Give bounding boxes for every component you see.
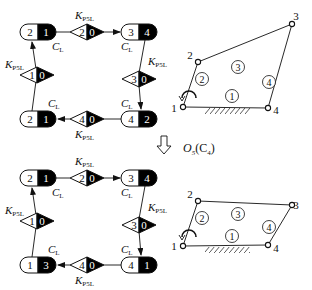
joint-label: 3 xyxy=(293,10,299,22)
joint-label: 4 xyxy=(273,104,279,116)
node-right-value: 2 xyxy=(144,113,150,125)
cl-label-tl: CL xyxy=(52,186,64,200)
down-arrow-icon xyxy=(157,136,171,154)
link-label: 1 xyxy=(230,231,235,242)
link-node-br: 41 xyxy=(121,257,157,273)
joint-diamond-right: 30 xyxy=(122,71,156,87)
joint-3 xyxy=(289,21,294,26)
ground-hatch xyxy=(205,108,250,114)
joint-1 xyxy=(180,243,185,248)
kp5l-label-left: KP5L xyxy=(4,204,24,218)
link-label: 4 xyxy=(267,222,272,233)
diamond-left-value: 1 xyxy=(29,215,35,227)
node-right-value: 4 xyxy=(144,172,150,184)
node-right-value: 1 xyxy=(144,259,150,271)
diamond-right-value: 0 xyxy=(141,73,147,85)
node-left-value: 2 xyxy=(27,113,33,125)
cl-label-br: CL xyxy=(121,97,133,111)
diamond-left-value: 2 xyxy=(79,26,85,38)
kinematic-diagram: 2134214220103040KP5LKP5LKP5LKP5LCLCLCLCL… xyxy=(0,0,312,290)
diamond-left-value: 2 xyxy=(79,172,85,184)
link-label: 2 xyxy=(200,74,205,85)
ground-hatch xyxy=(205,247,250,253)
topology-graph-1: 2134214220103040KP5LKP5LKP5LKP5LCLCLCLCL xyxy=(4,9,167,142)
cl-label-tr: CL xyxy=(121,186,133,200)
topology-graph-2: 2134134120103040KP5LKP5LKP5LKP5LCLCLCLCL xyxy=(4,155,167,288)
node-right-value: 1 xyxy=(43,172,49,184)
cl-label-bl: CL xyxy=(48,97,60,111)
kp5l-label-left: KP5L xyxy=(4,58,24,72)
node-left-value: 4 xyxy=(128,259,134,271)
node-left-value: 2 xyxy=(27,172,33,184)
kp5l-label-bottom: KP5L xyxy=(74,274,94,288)
link-node-tl: 21 xyxy=(20,24,56,40)
kp5l-label-right: KP5L xyxy=(147,201,167,215)
link-label: 3 xyxy=(236,62,241,73)
node-left-value: 2 xyxy=(27,26,33,38)
diamond-left-value: 4 xyxy=(79,113,85,125)
link-node-br: 42 xyxy=(121,111,157,127)
kp5l-label-right: KP5L xyxy=(147,55,167,69)
joint-diamond-left: 10 xyxy=(20,67,54,83)
joint-label: 2 xyxy=(187,49,193,61)
four-bar-mechanism-2: 12341234 xyxy=(171,188,299,254)
diamond-left-value: 1 xyxy=(29,69,35,81)
kp5l-label-top: KP5L xyxy=(74,155,94,169)
node-right-value: 1 xyxy=(43,113,49,125)
joint-2 xyxy=(195,198,200,203)
kp5l-label-bottom: KP5L xyxy=(74,128,94,142)
diamond-right-value: 0 xyxy=(89,259,95,271)
operation-label: O5(C4) xyxy=(183,141,215,157)
joint-1 xyxy=(180,104,185,109)
node-left-value: 4 xyxy=(128,113,134,125)
diamond-right-value: 0 xyxy=(141,219,147,231)
link-node-tr: 34 xyxy=(121,170,157,186)
link-node-tl: 21 xyxy=(20,170,56,186)
link-node-bl: 21 xyxy=(20,111,56,127)
joint-4 xyxy=(265,242,270,247)
joint-2 xyxy=(195,59,200,64)
link-node-tr: 34 xyxy=(121,24,157,40)
joint-label: 1 xyxy=(171,102,177,114)
link-label: 3 xyxy=(236,209,241,220)
joint-4 xyxy=(265,105,270,110)
joint-diamond-bottom: 40 xyxy=(70,257,104,273)
diamond-left-value: 3 xyxy=(131,219,137,231)
cl-label-bl: CL xyxy=(48,243,60,257)
joint-label: 1 xyxy=(171,240,177,252)
transformation-step: O5(C4) xyxy=(157,136,215,157)
diamond-right-value: 0 xyxy=(89,26,95,38)
link-node-bl: 13 xyxy=(20,257,56,273)
diamond-right-value: 0 xyxy=(39,215,45,227)
joint-diamond-top: 20 xyxy=(70,170,104,186)
node-right-value: 1 xyxy=(43,26,49,38)
kp5l-label-top: KP5L xyxy=(74,9,94,23)
link-label: 4 xyxy=(267,77,272,88)
node-right-value: 4 xyxy=(144,26,150,38)
joint-label: 4 xyxy=(273,242,279,254)
four-bar-mechanism-1: 12341234 xyxy=(171,10,299,116)
joint-label: 3 xyxy=(293,199,299,211)
joint-diamond-left: 10 xyxy=(20,213,54,229)
node-left-value: 3 xyxy=(128,26,134,38)
diamond-right-value: 0 xyxy=(39,69,45,81)
diamond-left-value: 3 xyxy=(131,73,137,85)
node-left-value: 1 xyxy=(27,259,33,271)
link-label: 2 xyxy=(200,213,205,224)
link-label: 1 xyxy=(230,91,235,102)
cl-label-tl: CL xyxy=(52,40,64,54)
diamond-right-value: 0 xyxy=(89,172,95,184)
cl-label-tr: CL xyxy=(121,40,133,54)
joint-label: 2 xyxy=(187,188,193,200)
joint-diamond-bottom: 40 xyxy=(70,111,104,127)
diamond-right-value: 0 xyxy=(89,113,95,125)
node-right-value: 3 xyxy=(43,259,49,271)
joint-diamond-top: 20 xyxy=(70,24,104,40)
diamond-left-value: 4 xyxy=(79,259,85,271)
node-left-value: 3 xyxy=(128,172,134,184)
cl-label-br: CL xyxy=(121,243,133,257)
joint-diamond-right: 30 xyxy=(122,217,156,233)
